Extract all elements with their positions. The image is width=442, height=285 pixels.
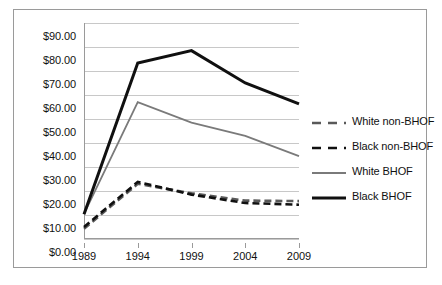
legend-label: Black BHOF bbox=[352, 190, 412, 202]
legend-entry[interactable]: Black BHOF bbox=[311, 183, 431, 208]
y-tick-label: $60.00 bbox=[43, 102, 76, 114]
series-line bbox=[84, 102, 299, 214]
x-tick-label: 1994 bbox=[126, 250, 150, 262]
gridline bbox=[84, 239, 299, 240]
legend-swatch-icon bbox=[311, 140, 347, 152]
x-tick-label: 1999 bbox=[179, 250, 203, 262]
chart-legend: White non-BHOFBlack non-BHOFWhite BHOFBl… bbox=[311, 108, 431, 208]
chart-frame: $0.00$10.00$20.00$30.00$40.00$50.00$60.0… bbox=[13, 9, 427, 268]
x-tick-mark bbox=[138, 243, 139, 248]
x-tick-label: 2009 bbox=[287, 250, 311, 262]
series-line bbox=[84, 182, 299, 227]
series-container bbox=[84, 23, 299, 239]
legend-entry[interactable]: White non-BHOF bbox=[311, 108, 431, 133]
y-tick-label: $20.00 bbox=[43, 198, 76, 210]
y-axis-tick-labels: $0.00$10.00$20.00$30.00$40.00$50.00$60.0… bbox=[22, 23, 80, 239]
y-tick-label: $40.00 bbox=[43, 150, 76, 162]
legend-label: White BHOF bbox=[352, 165, 413, 177]
series-line bbox=[84, 51, 299, 215]
legend-label: Black non-BHOF bbox=[352, 140, 433, 152]
y-tick-label: $70.00 bbox=[43, 78, 76, 90]
y-tick-label: $90.00 bbox=[43, 30, 76, 42]
x-tick-mark bbox=[245, 243, 246, 248]
x-tick-mark bbox=[192, 243, 193, 248]
y-tick-label: $80.00 bbox=[43, 54, 76, 66]
x-tick-label: 1989 bbox=[72, 250, 96, 262]
x-tick-mark bbox=[84, 243, 85, 248]
legend-label: White non-BHOF bbox=[352, 115, 434, 127]
legend-swatch-icon bbox=[311, 165, 347, 177]
legend-swatch-icon bbox=[311, 190, 347, 202]
y-tick-label: $30.00 bbox=[43, 174, 76, 186]
legend-entry[interactable]: White BHOF bbox=[311, 158, 431, 183]
x-axis-tick-labels: 19891994199920042009 bbox=[84, 243, 299, 263]
legend-entry[interactable]: Black non-BHOF bbox=[311, 133, 431, 158]
x-tick-label: 2004 bbox=[233, 250, 257, 262]
y-tick-label: $50.00 bbox=[43, 126, 76, 138]
legend-swatch-icon bbox=[311, 115, 347, 127]
x-tick-mark bbox=[299, 243, 300, 248]
series-line bbox=[84, 184, 299, 229]
y-tick-label: $10.00 bbox=[43, 222, 76, 234]
plot-area bbox=[84, 23, 299, 239]
line-chart: $0.00$10.00$20.00$30.00$40.00$50.00$60.0… bbox=[0, 0, 442, 285]
